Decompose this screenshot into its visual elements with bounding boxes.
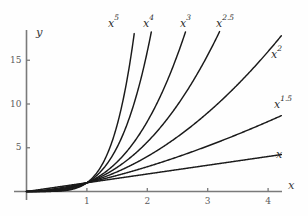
plot-canvas [0, 0, 308, 216]
curve-label-x2: x2 [271, 45, 282, 61]
curve-label-x5-exp: 5 [114, 13, 119, 22]
x-tick-label: 2 [139, 197, 155, 206]
curve-label-x3: x3 [180, 14, 191, 30]
y-axis-label: y [36, 27, 43, 39]
curve-label-x-base: x [276, 148, 282, 161]
curve-x15 [27, 116, 282, 192]
power-functions-chart: x5 x4 x3 x2.5 x2 x1.5 x y x 1234 51015 [0, 0, 308, 216]
x-tick-label: 1 [79, 197, 95, 206]
curve-label-x4-exp: 4 [149, 13, 154, 22]
x-axis-label: x [288, 180, 295, 192]
y-tick-label: 10 [4, 100, 22, 109]
curve-label-x1-5: x1.5 [274, 95, 292, 111]
curve-label-x2-5-exp: 2.5 [222, 13, 234, 22]
curve-x4 [27, 32, 152, 191]
x-tick-label: 4 [260, 197, 276, 206]
curve-label-x3-exp: 3 [186, 13, 191, 22]
curve-x [27, 155, 282, 192]
curve-label-x4: x4 [143, 14, 154, 30]
y-tick-label: 15 [4, 56, 22, 65]
curve-label-x5: x5 [108, 14, 119, 30]
curve-label-x: x [276, 145, 282, 161]
curve-label-x2-exp: 2 [277, 44, 282, 53]
curve-x2 [27, 36, 282, 192]
x-tick-label: 3 [200, 197, 216, 206]
curve-label-x1-5-exp: 1.5 [280, 94, 292, 103]
y-tick-label: 5 [4, 143, 22, 152]
curve-group [27, 32, 282, 192]
curve-x5 [27, 34, 135, 192]
curve-label-x2-5: x2.5 [216, 14, 234, 30]
curve-x3 [27, 32, 186, 191]
